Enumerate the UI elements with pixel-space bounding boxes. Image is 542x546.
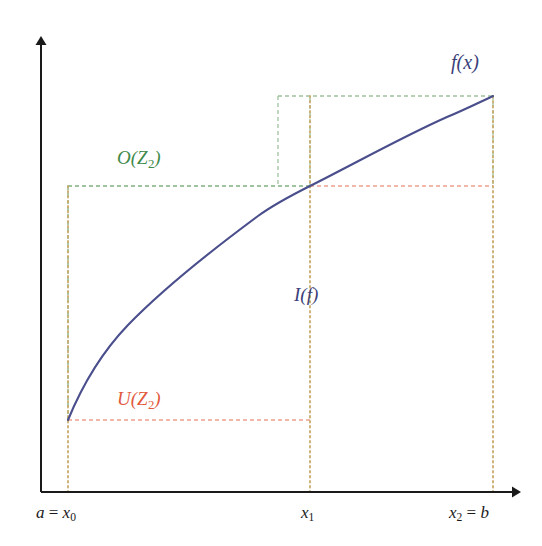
x2-sub: 2: [457, 511, 463, 524]
x-axis-arrow-icon: [512, 487, 521, 498]
x-axis-tick-label-x0: a = x0: [36, 504, 76, 524]
lower-sum-label-arg: Z: [137, 388, 148, 409]
upper-sum-label-arg: Z: [137, 147, 148, 168]
lower-sum-guides: [68, 186, 493, 420]
x-axis-tick-label-x2: x2 = b: [449, 504, 489, 524]
function-label-paren-close: ): [472, 51, 479, 73]
x0-equals: =: [49, 503, 59, 522]
integral-label-paren-close: ): [312, 284, 318, 305]
function-curve: [68, 96, 493, 420]
function-label-arg: x: [463, 51, 472, 73]
x0-var: x: [63, 503, 71, 522]
upper-sum-label-paren-close: ): [154, 147, 160, 168]
function-label: f(x): [451, 52, 479, 72]
x1-sub: 1: [309, 511, 315, 524]
upper-sum-label-base: O: [117, 147, 131, 168]
y-axis-arrow-icon: [36, 36, 47, 45]
integral-label: I(f): [294, 285, 318, 304]
x2-suffix: b: [480, 503, 489, 522]
upper-sum-label: O(Z2): [117, 148, 161, 171]
x-axis-tick-label-x1: x1: [301, 504, 314, 524]
x0-sub: 0: [70, 511, 76, 524]
lower-sum-label: U(Z2): [117, 389, 161, 412]
x2-var: x: [449, 503, 457, 522]
x1-var: x: [301, 503, 309, 522]
lower-sum-label-base: U: [117, 388, 131, 409]
plot-canvas: [0, 0, 542, 546]
lower-sum-label-paren-close: ): [154, 388, 160, 409]
x0-prefix: a: [36, 503, 45, 522]
upper-sum-guides: [68, 96, 493, 420]
x2-equals: =: [467, 503, 477, 522]
darboux-sum-figure: f(x) O(Z2) I(f) U(Z2) a = x0 x1 x2 = b: [0, 0, 542, 546]
